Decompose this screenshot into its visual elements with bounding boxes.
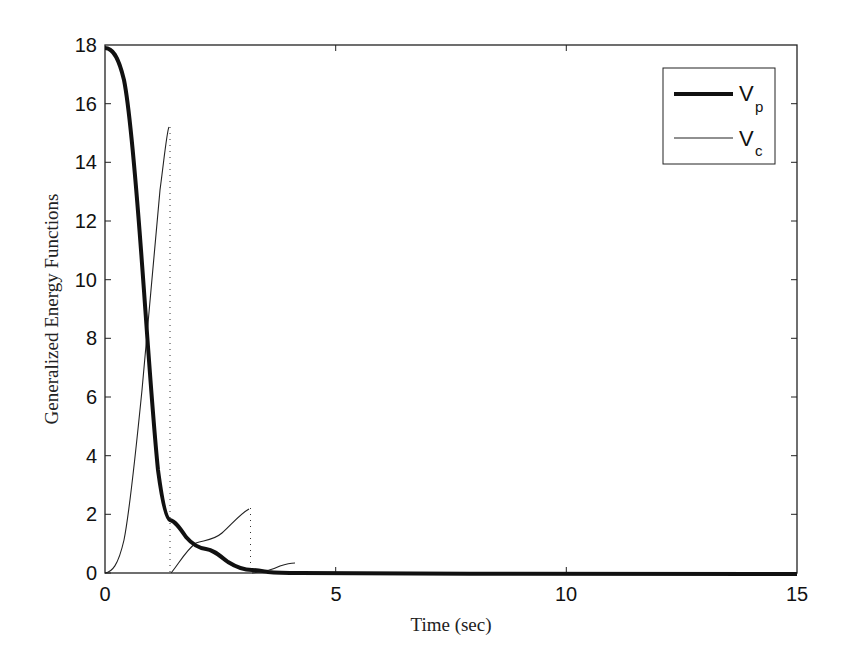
chart-canvas: 0 2 4 6 8 10 12 14 16 18 0 5 10 15 Time …: [0, 0, 845, 662]
svg-text:18: 18: [75, 34, 97, 56]
y-axis-title: Generalized Energy Functions: [41, 194, 62, 425]
svg-text:4: 4: [86, 445, 97, 467]
legend-vc-label: V: [739, 126, 754, 151]
svg-text:16: 16: [75, 93, 97, 115]
legend-vc-sub: c: [755, 142, 763, 159]
svg-text:15: 15: [786, 583, 808, 605]
svg-text:6: 6: [86, 386, 97, 408]
svg-text:10: 10: [555, 583, 577, 605]
legend-vp-sub: p: [755, 98, 763, 115]
legend: V p V c: [663, 68, 775, 164]
x-axis-ticks: [336, 45, 567, 573]
y-axis-ticks: [105, 104, 797, 573]
series-vc-segment-2: [171, 509, 249, 573]
svg-text:8: 8: [86, 327, 97, 349]
x-axis-title: Time (sec): [410, 614, 491, 636]
svg-text:0: 0: [99, 583, 110, 605]
y-tick-labels: 0 2 4 6 8 10 12 14 16 18: [75, 34, 97, 584]
svg-text:14: 14: [75, 151, 97, 173]
svg-text:0: 0: [86, 562, 97, 584]
legend-vp-label: V: [739, 81, 754, 106]
svg-text:12: 12: [75, 210, 97, 232]
svg-text:2: 2: [86, 503, 97, 525]
x-tick-labels: 0 5 10 15: [99, 583, 808, 605]
svg-text:10: 10: [75, 269, 97, 291]
svg-text:5: 5: [330, 583, 341, 605]
